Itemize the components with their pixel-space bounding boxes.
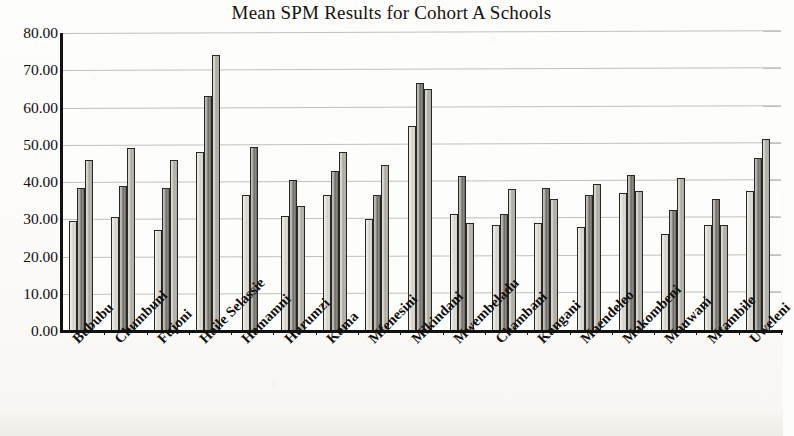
bar-highlight: [636, 192, 638, 330]
bar: [416, 83, 424, 331]
bar-highlight: [78, 189, 80, 330]
bar-highlight: [70, 222, 72, 330]
bar-group: [619, 33, 643, 331]
bar: [585, 195, 593, 331]
bar-highlight: [171, 161, 173, 330]
bar: [500, 214, 508, 331]
bar: [508, 189, 516, 331]
bar-highlight: [374, 196, 376, 330]
bar: [365, 219, 373, 331]
bar-highlight: [366, 220, 368, 330]
bar: [119, 186, 127, 331]
bar-highlight: [670, 211, 672, 330]
bar-highlight: [205, 97, 207, 330]
bar: [373, 195, 381, 331]
bar: [635, 191, 643, 331]
bar-highlight: [501, 215, 503, 330]
bar-highlight: [551, 200, 553, 330]
bar-highlight: [340, 153, 342, 330]
bar-group: [154, 33, 178, 331]
bar: [196, 152, 204, 331]
bar: [204, 96, 212, 331]
bar-group: [196, 33, 220, 331]
bar-highlight: [467, 224, 469, 330]
bar: [762, 139, 770, 331]
bar-highlight: [763, 140, 765, 330]
bar-highlight: [425, 90, 427, 330]
bar-group: [365, 33, 389, 331]
bar-highlight: [417, 84, 419, 330]
bar-highlight: [662, 235, 664, 330]
bar: [712, 199, 720, 331]
x-axis-category-labels: BububuChumbuniFujoniHaile SelassieHamamn…: [0, 331, 783, 436]
bar: [424, 89, 432, 331]
bar: [593, 184, 601, 331]
bar: [127, 148, 135, 331]
bar: [154, 230, 162, 331]
bar-highlight: [586, 196, 588, 330]
bar: [661, 234, 669, 331]
bar-group: [111, 33, 135, 331]
bar-highlight: [721, 226, 723, 330]
bar-group: [746, 33, 770, 331]
bar: [170, 160, 178, 331]
bar-group: [69, 33, 93, 331]
bar: [577, 227, 585, 331]
y-axis-tick-label: 30.00: [0, 210, 58, 228]
bar-highlight: [543, 189, 545, 330]
bar-highlight: [298, 207, 300, 330]
chart-title: Mean SPM Results for Cohort A Schools: [0, 2, 783, 24]
bar-group: [408, 33, 432, 331]
bar-highlight: [86, 161, 88, 330]
bar-group: [704, 33, 728, 331]
bar: [669, 210, 677, 331]
bar-highlight: [163, 189, 165, 330]
bar: [85, 160, 93, 331]
bar-highlight: [120, 187, 122, 330]
bar-group: [577, 33, 601, 331]
y-axis-tick-label: 10.00: [0, 285, 58, 303]
bar: [381, 165, 389, 331]
bar-highlight: [678, 179, 680, 330]
bar: [542, 188, 550, 331]
bar: [77, 188, 85, 331]
y-axis-tick-label: 70.00: [0, 61, 58, 79]
bar-highlight: [594, 185, 596, 330]
bar-group: [534, 33, 558, 331]
bar-group: [281, 33, 305, 331]
bar: [339, 152, 347, 331]
bar: [289, 180, 297, 331]
y-axis-tick-label: 20.00: [0, 248, 58, 266]
bar-highlight: [128, 149, 130, 330]
bar: [162, 188, 170, 331]
y-axis-tick-labels: 80.0070.0060.0050.0040.0030.0020.0010.00…: [0, 33, 58, 331]
bar-highlight: [155, 231, 157, 330]
bar: [212, 55, 220, 331]
y-axis-tick-label: 60.00: [0, 99, 58, 117]
y-axis-tick-label: 40.00: [0, 173, 58, 191]
bar-group: [323, 33, 347, 331]
bar-highlight: [509, 190, 511, 330]
y-axis-tick-label: 80.00: [0, 24, 58, 42]
y-axis-tick-label: 50.00: [0, 136, 58, 154]
bar-highlight: [197, 153, 199, 330]
bar: [677, 178, 685, 331]
y-axis-line: [60, 33, 63, 332]
bar-group: [450, 33, 474, 331]
bar-highlight: [713, 200, 715, 330]
bar-highlight: [213, 56, 215, 330]
bar-highlight: [290, 181, 292, 330]
bar: [69, 221, 77, 331]
bar-highlight: [382, 166, 384, 330]
